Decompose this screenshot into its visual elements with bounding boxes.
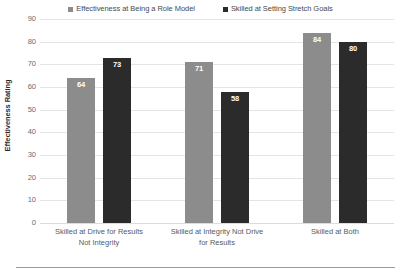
y-axis-tick: 30 xyxy=(28,151,36,159)
x-axis-category-labels: Skilled at Drive for ResultsNot Integrit… xyxy=(40,226,394,256)
legend-swatch-icon xyxy=(223,7,228,12)
legend-item-label: Effectiveness at Being a Role Model xyxy=(76,5,195,13)
y-axis-tick: 50 xyxy=(28,106,36,114)
bar-value-label: 84 xyxy=(313,36,321,44)
bar-value-label: 73 xyxy=(113,61,121,69)
bar[interactable]: 64 xyxy=(67,78,95,223)
y-axis-title-label: Effectiveness Rating xyxy=(3,79,12,151)
bar[interactable]: 58 xyxy=(221,92,249,223)
y-axis-tick: 10 xyxy=(28,197,36,205)
bar[interactable]: 73 xyxy=(103,58,131,223)
bar-value-label: 80 xyxy=(349,45,357,53)
bar-group: 6473 xyxy=(40,19,158,223)
chart-legend: Effectiveness at Being a Role Model Skil… xyxy=(0,2,401,16)
bar[interactable]: 84 xyxy=(303,33,331,223)
y-axis-tick: 80 xyxy=(28,38,36,46)
bar-group: 7158 xyxy=(158,19,276,223)
legend-item-label: Skilled at Setting Stretch Goals xyxy=(231,5,333,13)
bar-value-label: 71 xyxy=(195,65,203,73)
y-axis-title: Effectiveness Rating xyxy=(1,0,14,230)
figure-bottom-rule xyxy=(16,267,395,268)
x-axis-category-label: Skilled at Drive for ResultsNot Integrit… xyxy=(40,226,158,256)
plot-area: 9080706050403020100 647371588480 xyxy=(40,19,394,223)
y-axis-tick: 0 xyxy=(32,219,36,227)
legend-item-role-model[interactable]: Effectiveness at Being a Role Model xyxy=(68,5,195,13)
legend-swatch-icon xyxy=(68,7,73,12)
bar-value-label: 64 xyxy=(77,81,85,89)
bar-chart-figure: Effectiveness at Being a Role Model Skil… xyxy=(0,0,401,275)
y-axis-tick: 60 xyxy=(28,83,36,91)
gridline xyxy=(40,223,394,224)
y-axis-tick-labels: 9080706050403020100 xyxy=(16,19,36,223)
y-axis-tick: 20 xyxy=(28,174,36,182)
y-axis-tick: 90 xyxy=(28,15,36,23)
y-axis-tick: 70 xyxy=(28,61,36,69)
x-axis-category-label: Skilled at Both xyxy=(276,226,394,256)
x-axis-category-label: Skilled at Integrity Not Drivefor Result… xyxy=(158,226,276,256)
bar[interactable]: 71 xyxy=(185,62,213,223)
bar-groups: 647371588480 xyxy=(40,19,394,223)
bar-value-label: 58 xyxy=(231,95,239,103)
y-axis-tick: 40 xyxy=(28,129,36,137)
bar-group: 8480 xyxy=(276,19,394,223)
bar[interactable]: 80 xyxy=(339,42,367,223)
legend-item-stretch-goals[interactable]: Skilled at Setting Stretch Goals xyxy=(223,5,333,13)
